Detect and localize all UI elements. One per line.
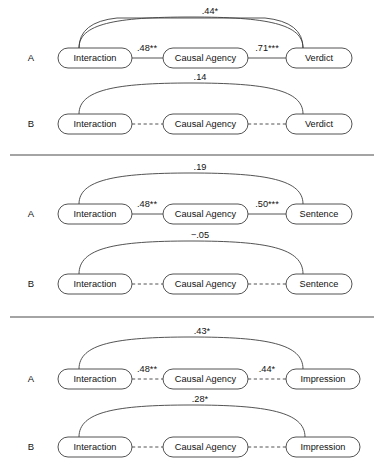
arc-label-2b: −.05 xyxy=(191,230,209,240)
node-label-2b-interaction: Interaction xyxy=(74,279,117,289)
node-label-3a-impression: Impression xyxy=(301,374,346,384)
arc-label-1b: .14 xyxy=(194,72,207,82)
row-letter-3b: B xyxy=(28,441,34,452)
node-label-3b-impression: Impression xyxy=(301,442,346,452)
row-letter-1a: A xyxy=(28,52,35,63)
node-label-2b-sentence: Sentence xyxy=(300,279,339,289)
node-label-2a-causal-agency: Causal Agency xyxy=(175,209,237,219)
node-label-1b-interaction: Interaction xyxy=(74,119,117,129)
path-model-figure: A .44* .48** .71*** Interaction Causal A… xyxy=(0,0,382,468)
arc-curve-3b xyxy=(79,405,305,437)
path-label-2a-right: .50*** xyxy=(255,199,279,209)
node-label-1b-causal-agency: Causal Agency xyxy=(175,119,237,129)
arc-label-1a: .44* xyxy=(202,6,219,16)
arc-label-2a: .19 xyxy=(194,162,207,172)
node-label-1a-interaction: Interaction xyxy=(74,53,117,63)
node-label-2a-sentence: Sentence xyxy=(300,209,339,219)
node-label-3b-causal-agency: Causal Agency xyxy=(175,442,237,452)
path-label-2a-left: .48** xyxy=(137,199,157,209)
path-label-3a-left: .48** xyxy=(137,364,157,374)
node-label-1a-causal-agency: Causal Agency xyxy=(175,53,237,63)
node-label-1b-verdict: Verdict xyxy=(305,119,334,129)
arc-curve-2b xyxy=(79,241,303,274)
node-label-3a-causal-agency: Causal Agency xyxy=(175,374,237,384)
path-label-1a-left: .48** xyxy=(137,43,157,53)
arc-curve-1b xyxy=(79,83,303,114)
node-label-2a-interaction: Interaction xyxy=(74,209,117,219)
node-label-2b-causal-agency: Causal Agency xyxy=(175,279,237,289)
arc-label-3a: .43* xyxy=(194,326,211,336)
row-letter-2b: B xyxy=(28,278,34,289)
node-label-1a-verdict: Verdict xyxy=(305,53,334,63)
row-letter-3a: A xyxy=(28,373,35,384)
arc-label-3b: .28* xyxy=(192,394,209,404)
row-letter-2a: A xyxy=(28,208,35,219)
row-letter-1b: B xyxy=(28,118,34,129)
node-label-3b-interaction: Interaction xyxy=(74,442,117,452)
node-label-3a-interaction: Interaction xyxy=(74,374,117,384)
path-label-3a-right: .44* xyxy=(259,364,276,374)
path-label-1a-right: .71*** xyxy=(255,43,279,53)
